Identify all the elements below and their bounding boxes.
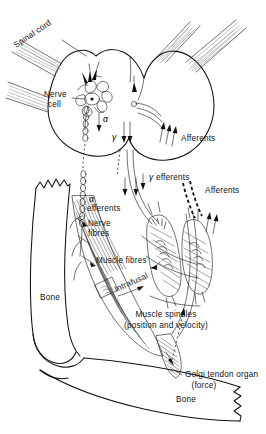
- alpha-arrow-cord: [97, 113, 102, 132]
- label-golgi-2: (force): [191, 381, 216, 390]
- spindle-end-brush: [152, 218, 166, 229]
- nerve-cell-group: [72, 62, 112, 141]
- dorsal-sulcus: [138, 78, 144, 100]
- label-intrafusal: Intrafusal: [113, 271, 149, 294]
- neuron-dendrite-cluster: [76, 76, 112, 116]
- bone-break-edge: [36, 179, 70, 188]
- bone-upper-inner: [65, 184, 80, 356]
- central-canal-notch: [130, 57, 131, 82]
- spinal-cord-outline: [48, 50, 214, 161]
- label-alpha-efferents: efferents: [87, 204, 121, 213]
- dorsal-root-right: [186, 20, 246, 72]
- gamma-efferent-arrows: [123, 174, 146, 196]
- afferent-arrows-mid: [206, 212, 218, 234]
- bone-upper-outline: [30, 188, 76, 364]
- neuron-nucleus: [90, 97, 93, 100]
- afferent-entry-fibres: [131, 76, 163, 129]
- spindle-2-hatching: [184, 232, 211, 289]
- label-bone-right: Bone: [176, 395, 196, 404]
- label-afferents-mid: Afferents: [205, 186, 239, 195]
- afferent-descending-dashed: [183, 181, 202, 218]
- label-golgi-1: Golgi tendon organ: [185, 370, 258, 379]
- muscle-spindle-detail: [142, 202, 212, 308]
- gamma-arrow-cord: [122, 122, 133, 143]
- spinal-cord-leader: [62, 40, 86, 56]
- label-afferents-top: Afferents: [181, 134, 215, 143]
- bone-upper-left: [30, 179, 80, 364]
- joint-condyle: [33, 334, 84, 379]
- label-gamma-efferents-symbol: γ: [149, 172, 154, 182]
- condyle-inner: [40, 370, 68, 379]
- label-nerve-cell-2: cell: [48, 100, 61, 109]
- label-alpha-cord: α: [103, 114, 109, 124]
- label-gamma-cord: γ: [112, 132, 117, 142]
- dorsal-root-mid: [156, 22, 200, 63]
- spindle-capsule-1: [147, 202, 181, 308]
- label-nerve-cell-1: Nerve: [44, 90, 67, 99]
- label-muscle-spindles-2: (position and velocity): [124, 321, 208, 330]
- anatomical-figure: Spinal cord Nerve cell α γ Afferents γ e…: [0, 0, 266, 434]
- label-gamma-efferents: efferents: [156, 173, 190, 182]
- label-nerve-fibres-2: fibres: [88, 229, 109, 238]
- label-muscle-fibres: Muscle fibres: [96, 256, 147, 265]
- label-spinal-cord: Spinal cord: [12, 18, 53, 50]
- label-nerve-fibres-1: Nerve: [88, 219, 111, 228]
- muscle-fibres-pointer: [150, 262, 160, 270]
- bone-lower-break-edge: [234, 387, 241, 421]
- cord-to-limb-dashed: [117, 150, 120, 176]
- alpha-axon-myelin-chain: [83, 106, 89, 141]
- diagram-canvas: Spinal cord Nerve cell α γ Afferents γ e…: [0, 0, 266, 434]
- nerve-cell-leader: [72, 98, 84, 99]
- label-muscle-spindles-1: Muscle spindles: [135, 310, 196, 319]
- afferent-arrows-top: [160, 122, 177, 146]
- label-bone-left: Bone: [40, 293, 60, 302]
- neuron-dendrite-spray: [82, 62, 99, 84]
